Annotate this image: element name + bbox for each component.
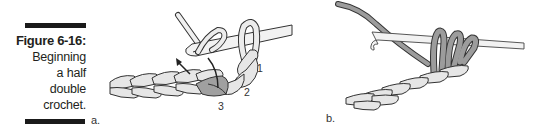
illustration-panel-b <box>0 0 554 133</box>
step-label-1: 1 <box>257 62 263 74</box>
step-label-2: 2 <box>244 86 250 98</box>
step-label-3: 3 <box>218 100 224 112</box>
panel-label-b: b. <box>326 112 335 124</box>
panel-label-a: a. <box>91 114 100 126</box>
foundation-chain <box>346 66 468 111</box>
